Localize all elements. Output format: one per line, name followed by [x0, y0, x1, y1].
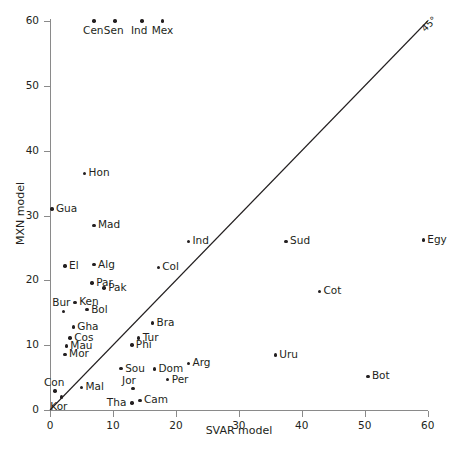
data-point[interactable]: [187, 240, 190, 243]
data-point[interactable]: [119, 367, 122, 370]
data-point[interactable]: [284, 240, 287, 243]
data-point[interactable]: [157, 266, 160, 269]
diagonal-line-annotation: 45°: [419, 14, 439, 34]
y-tick-mark: [44, 151, 50, 152]
data-point[interactable]: [102, 286, 105, 289]
y-tick-label: 40: [13, 144, 39, 156]
plot-area: 0102030405060 0102030405060 CenSenIndMex…: [0, 0, 454, 457]
data-point[interactable]: [422, 238, 425, 241]
data-point-label: Per: [172, 373, 189, 385]
data-point-label: Sou: [125, 362, 145, 374]
data-point-label: Bur: [52, 296, 70, 308]
data-point[interactable]: [166, 378, 169, 381]
data-point[interactable]: [90, 281, 93, 284]
data-point[interactable]: [92, 263, 95, 266]
data-point-label: Hon: [89, 166, 110, 178]
data-point-label: Bol: [91, 303, 108, 315]
y-tick-mark: [44, 21, 50, 22]
data-point-label: Ind: [192, 234, 208, 246]
data-point[interactable]: [60, 395, 63, 398]
data-point[interactable]: [83, 172, 86, 175]
data-point-label: Alg: [98, 258, 115, 270]
x-tick-mark: [113, 411, 114, 417]
x-tick-mark: [176, 411, 177, 417]
data-point-label: Mad: [98, 218, 120, 230]
data-point[interactable]: [153, 367, 156, 370]
data-point-label: Pak: [108, 281, 126, 293]
data-point[interactable]: [92, 224, 95, 227]
x-axis-label: SVAR model: [50, 424, 428, 437]
data-point-label: Cam: [144, 393, 168, 405]
data-point-label: Cot: [323, 284, 341, 296]
data-point[interactable]: [73, 301, 76, 304]
data-point[interactable]: [131, 387, 134, 390]
data-point-label: Sen: [104, 24, 124, 36]
data-point[interactable]: [161, 19, 164, 22]
data-point[interactable]: [65, 344, 68, 347]
x-tick-mark: [239, 411, 240, 417]
data-point[interactable]: [130, 343, 133, 346]
data-point[interactable]: [274, 353, 277, 356]
data-point-label: Col: [162, 260, 179, 272]
data-point[interactable]: [140, 19, 143, 22]
data-point-label: Sud: [290, 234, 310, 246]
data-point-label: Tha: [107, 396, 127, 408]
data-point[interactable]: [80, 386, 83, 389]
data-point-label: Bot: [372, 369, 390, 381]
x-tick-mark: [302, 411, 303, 417]
y-tick-mark: [44, 216, 50, 217]
y-tick-mark: [44, 86, 50, 87]
data-point-label: Jor: [122, 374, 136, 386]
y-tick-mark: [44, 280, 50, 281]
data-point[interactable]: [318, 290, 321, 293]
data-point-label: Bra: [157, 316, 175, 328]
data-point-label: Mex: [152, 24, 174, 36]
data-point[interactable]: [53, 389, 56, 392]
data-point-label: Egy: [427, 233, 447, 245]
data-point-label: Arg: [192, 356, 210, 368]
data-point-label: Kor: [50, 400, 67, 412]
data-point[interactable]: [187, 362, 190, 365]
data-point-label: Con: [44, 376, 64, 388]
data-point[interactable]: [62, 310, 65, 313]
data-point[interactable]: [130, 401, 133, 404]
data-point[interactable]: [50, 207, 53, 210]
data-point[interactable]: [138, 399, 141, 402]
data-point-label: Uru: [279, 348, 298, 360]
data-point[interactable]: [63, 264, 66, 267]
data-point-label: Cen: [83, 24, 103, 36]
data-point-label: El: [69, 259, 79, 271]
scatter-plot-figure: 0102030405060 0102030405060 CenSenIndMex…: [0, 0, 454, 457]
data-point[interactable]: [113, 19, 116, 22]
y-tick-label: 60: [13, 14, 39, 26]
data-point[interactable]: [72, 325, 75, 328]
data-point[interactable]: [151, 321, 154, 324]
diagonal-reference-line: [0, 0, 454, 457]
y-tick-mark: [44, 345, 50, 346]
data-point[interactable]: [92, 19, 95, 22]
data-point-label: Mal: [85, 380, 103, 392]
x-tick-mark: [428, 411, 429, 417]
y-tick-label: 0: [13, 403, 39, 415]
x-tick-mark: [365, 411, 366, 417]
y-axis-line: [50, 19, 51, 411]
data-point[interactable]: [63, 353, 66, 356]
y-tick-label: 50: [13, 79, 39, 91]
y-tick-label: 20: [13, 273, 39, 285]
data-point[interactable]: [85, 308, 88, 311]
data-point-label: Ind: [131, 24, 147, 36]
y-axis-label: MXN model: [14, 182, 27, 245]
data-point-label: Gua: [56, 202, 77, 214]
data-point-label: Phi: [136, 338, 152, 350]
data-point-label: Mor: [69, 347, 89, 359]
data-point[interactable]: [366, 375, 369, 378]
y-tick-label: 10: [13, 338, 39, 350]
